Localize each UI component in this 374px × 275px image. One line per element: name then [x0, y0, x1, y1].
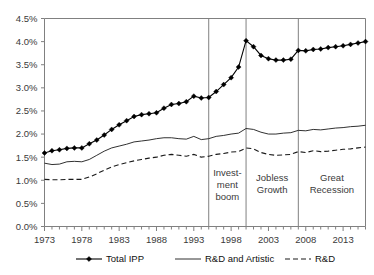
- y-tick-label: 4.5%: [16, 13, 38, 24]
- total-ipp-marker: [42, 151, 47, 156]
- y-axis-tick-labels: 0.0%0.5%1.0%1.5%2.0%2.5%3.0%3.5%4.0%4.5%: [16, 13, 38, 232]
- legend-item-rd-and-artistic: R&D and Artistic: [205, 253, 274, 264]
- rd-and-artistic-line: [45, 125, 366, 164]
- total-ipp-line: [45, 41, 366, 153]
- y-tick-label: 1.5%: [16, 152, 38, 163]
- y-tick-label: 2.5%: [16, 105, 38, 116]
- total-ipp-marker: [356, 40, 361, 45]
- era-band-label-line: ment: [217, 179, 238, 190]
- y-tick-label: 2.0%: [16, 128, 38, 139]
- legend-item-total-ipp: Total IPP: [106, 253, 144, 264]
- y-tick-label: 0.5%: [16, 198, 38, 209]
- total-ipp-marker: [124, 118, 129, 123]
- x-tick-label: 1993: [183, 234, 204, 245]
- total-ipp-marker: [326, 45, 331, 50]
- x-tick-label: 1988: [146, 234, 167, 245]
- x-axis-tick-marks: [45, 227, 366, 232]
- series-total-ipp-markers: [42, 38, 368, 155]
- total-ipp-marker: [333, 44, 338, 49]
- legend-item-rd: R&D: [315, 253, 335, 264]
- total-ipp-marker: [266, 56, 271, 61]
- total-ipp-marker: [341, 43, 346, 48]
- total-ipp-marker: [117, 122, 122, 127]
- total-ipp-marker: [49, 148, 54, 153]
- total-ipp-marker: [273, 58, 278, 63]
- total-ipp-marker: [303, 48, 308, 53]
- x-axis-tick-labels: 197319781983198819931998200320082013: [34, 234, 354, 245]
- total-ipp-marker: [57, 147, 62, 152]
- total-ipp-marker: [87, 141, 92, 146]
- x-tick-label: 1978: [71, 234, 92, 245]
- total-ipp-marker: [281, 58, 286, 63]
- y-tick-label: 3.0%: [16, 82, 38, 93]
- series-rd: [45, 147, 366, 180]
- total-ipp-marker: [147, 111, 152, 116]
- era-band-label-line: Jobless: [256, 172, 288, 183]
- total-ipp-marker: [132, 114, 137, 119]
- total-ipp-marker: [154, 110, 159, 115]
- y-tick-label: 3.5%: [16, 59, 38, 70]
- chart-legend: Total IPPR&D and ArtisticR&D: [76, 253, 335, 264]
- total-ipp-marker: [64, 146, 69, 151]
- total-ipp-marker: [139, 112, 144, 117]
- x-tick-label: 1998: [221, 234, 242, 245]
- total-ipp-marker: [72, 145, 77, 150]
- x-tick-label: 2013: [333, 234, 354, 245]
- total-ipp-marker: [176, 101, 181, 106]
- series-total-ipp: [45, 41, 366, 153]
- total-ipp-marker: [199, 96, 204, 101]
- rd-line: [45, 147, 366, 180]
- total-ipp-marker: [169, 102, 174, 107]
- x-tick-label: 1983: [109, 234, 130, 245]
- era-band-label-line: Invest-: [213, 167, 242, 178]
- era-band-labels: Invest-mentboomJoblessGrowthGreatRecessi…: [213, 167, 354, 202]
- series-rd-and-artistic: [45, 125, 366, 164]
- y-axis-tick-marks: [41, 19, 45, 227]
- era-band-label-line: Great: [320, 172, 344, 183]
- line-chart: 0.0%0.5%1.0%1.5%2.0%2.5%3.0%3.5%4.0%4.5%…: [0, 0, 374, 275]
- total-ipp-marker: [311, 47, 316, 52]
- era-band-label-line: Growth: [257, 184, 288, 195]
- y-tick-label: 1.0%: [16, 175, 38, 186]
- x-tick-label: 2008: [295, 234, 316, 245]
- era-band-label-line: boom: [216, 191, 240, 202]
- era-band-label-line: Recession: [310, 184, 354, 195]
- total-ipp-marker: [161, 106, 166, 111]
- y-tick-label: 0.0%: [16, 221, 38, 232]
- total-ipp-marker: [348, 42, 353, 47]
- total-ipp-marker: [318, 47, 323, 52]
- total-ipp-marker: [363, 39, 368, 44]
- chart-container: 0.0%0.5%1.0%1.5%2.0%2.5%3.0%3.5%4.0%4.5%…: [0, 0, 374, 275]
- y-tick-label: 4.0%: [16, 36, 38, 47]
- total-ipp-marker: [79, 145, 84, 150]
- x-tick-label: 2003: [258, 234, 279, 245]
- legend-marker-total-ipp: [86, 256, 91, 261]
- x-tick-label: 1973: [34, 234, 55, 245]
